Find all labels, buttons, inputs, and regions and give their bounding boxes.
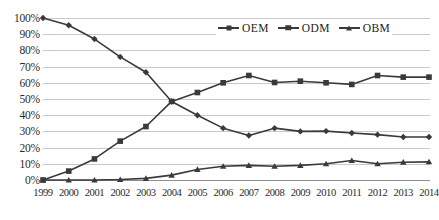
data-point-square [298, 78, 304, 84]
x-axis-tick-label: 2001 [85, 187, 104, 198]
data-point-square [92, 156, 98, 162]
data-point-diamond [374, 131, 380, 137]
chart-legend: OEMODMOBM [216, 19, 392, 36]
data-point-diamond [40, 15, 46, 21]
y-axis-tick-label: 100% [14, 12, 40, 24]
y-axis-tick-label: 50% [20, 93, 40, 105]
data-point-diamond [220, 125, 226, 131]
data-point-square [220, 80, 226, 86]
legend-marker-square [286, 25, 292, 31]
data-point-square [169, 99, 175, 105]
legend-label: OEM [242, 22, 269, 34]
legend-square-icon [278, 22, 299, 33]
data-point-square [349, 82, 355, 88]
x-axis-tick-label: 2003 [136, 187, 155, 198]
data-point-diamond [349, 130, 355, 136]
data-point-square [400, 74, 406, 80]
data-point-square [272, 80, 278, 86]
y-axis-tick-label: 30% [20, 125, 40, 137]
data-point-diamond [400, 134, 406, 140]
y-axis-tick-label: 80% [20, 44, 40, 56]
legend-label: OBM [363, 22, 390, 34]
data-point-diamond [194, 112, 200, 118]
legend-label: ODM [302, 22, 330, 34]
y-axis-tick-label: 70% [20, 61, 40, 73]
x-axis-tick-label: 2005 [188, 187, 207, 198]
series-line-obm [43, 161, 429, 180]
x-axis: 1999200020012002200320042005200620072008… [43, 182, 430, 202]
x-axis-tick-label: 2014 [419, 187, 438, 198]
x-axis-tick-label: 1999 [33, 187, 52, 198]
data-point-diamond [271, 125, 277, 131]
data-point-square [66, 168, 72, 174]
legend-item-odm[interactable]: ODM [278, 22, 330, 34]
data-point-square [246, 73, 252, 79]
x-axis-tick-label: 2013 [394, 187, 413, 198]
y-axis-tick-label: 90% [20, 28, 40, 40]
legend-diamond-icon [218, 22, 239, 33]
data-point-square [323, 80, 329, 86]
y-axis-tick-label: 10% [20, 158, 40, 170]
y-axis-tick-label: 0% [25, 174, 40, 186]
legend-marker-triangle [346, 25, 352, 30]
legend-marker-diamond [226, 25, 231, 30]
y-axis: 100%90%80%70%60%50%40%30%20%10%0% [0, 18, 40, 180]
x-axis-tick-label: 2004 [162, 187, 181, 198]
data-point-square [375, 73, 381, 79]
x-axis-tick-label: 2011 [342, 187, 361, 198]
x-axis-tick-label: 2009 [291, 187, 310, 198]
legend-item-oem[interactable]: OEM [218, 22, 269, 34]
x-axis-tick-label: 2000 [59, 187, 78, 198]
series-obm [40, 157, 432, 182]
legend-triangle-icon [339, 22, 360, 33]
x-axis-tick-label: 2007 [239, 187, 258, 198]
x-axis-tick-label: 2012 [368, 187, 387, 198]
series-line-odm [43, 76, 429, 180]
data-point-diamond [246, 132, 252, 138]
plot-area [43, 18, 430, 180]
legend-item-obm[interactable]: OBM [339, 22, 390, 34]
data-point-square [195, 90, 201, 96]
data-point-square [426, 74, 432, 80]
series-container [43, 18, 430, 180]
data-point-diamond [297, 128, 303, 134]
data-point-diamond [66, 22, 72, 28]
x-axis-tick-label: 2002 [110, 187, 129, 198]
data-point-diamond [323, 128, 329, 134]
y-axis-tick-label: 20% [20, 142, 40, 154]
data-point-square [143, 124, 149, 130]
x-axis-tick-label: 2006 [213, 187, 232, 198]
data-point-diamond [426, 134, 432, 140]
y-axis-tick-label: 40% [20, 109, 40, 121]
y-axis-tick-label: 60% [20, 77, 40, 89]
x-axis-tick-label: 2010 [316, 187, 335, 198]
x-axis-tick-label: 2008 [265, 187, 284, 198]
data-point-square [117, 138, 123, 144]
